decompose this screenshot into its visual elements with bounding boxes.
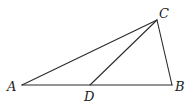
triangle-figure: A B C D: [0, 0, 194, 111]
geometry-diagram: A B C D: [0, 0, 194, 111]
segment-cd: [90, 20, 157, 85]
segment-ac: [22, 20, 157, 85]
segment-cb: [157, 20, 172, 85]
point-label-d: D: [83, 89, 95, 104]
vertex-label-c: C: [159, 6, 169, 21]
vertex-label-b: B: [174, 79, 185, 94]
vertex-label-a: A: [6, 79, 16, 94]
